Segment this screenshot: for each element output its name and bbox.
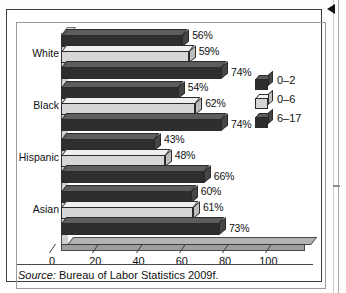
category-label-hispanic: Hispanic bbox=[19, 151, 59, 163]
page-edge-line-outer bbox=[338, 0, 339, 293]
x-tick-label: 80 bbox=[219, 255, 231, 267]
bar-asian-0-2 bbox=[61, 185, 191, 197]
source-divider bbox=[17, 264, 313, 265]
x-tick-label: 40 bbox=[132, 255, 144, 267]
bar-value-label: 74% bbox=[231, 66, 251, 78]
bar-value-label: 48% bbox=[175, 149, 195, 161]
bar-black-0-6 bbox=[61, 97, 195, 109]
bar-front bbox=[61, 223, 219, 235]
bar-hispanic-0-6 bbox=[61, 149, 165, 161]
page-edge-line bbox=[333, 0, 334, 293]
x-tick-label: 0 bbox=[49, 255, 55, 267]
chart-frame: WhiteBlackHispanicAsian 56%59%74%54%62%7… bbox=[6, 9, 322, 282]
legend-label: 6–17 bbox=[277, 112, 301, 124]
bar-white-0-2 bbox=[61, 29, 182, 41]
page-edge-tick bbox=[333, 185, 340, 187]
bar-black-0-2 bbox=[61, 81, 178, 93]
legend-swatch-cube-icon bbox=[255, 75, 268, 86]
bar-hispanic-0-2 bbox=[61, 133, 154, 145]
legend: 0–2 0–6 6–17 bbox=[255, 72, 319, 129]
figure-page: WhiteBlackHispanicAsian 56%59%74%54%62%7… bbox=[0, 0, 346, 293]
category-label-white: White bbox=[32, 47, 59, 59]
legend-item-2: 6–17 bbox=[255, 110, 319, 129]
bar-value-label: 61% bbox=[203, 201, 223, 213]
legend-label: 0–2 bbox=[277, 74, 295, 86]
bar-value-label: 59% bbox=[199, 45, 219, 57]
bar-value-label: 54% bbox=[188, 81, 208, 93]
x-tick-label: 20 bbox=[89, 255, 101, 267]
bar-value-label: 56% bbox=[192, 29, 212, 41]
left-triangle-marker-icon bbox=[327, 4, 335, 14]
source-note: Source: Bureau of Labor Statistics 2009f… bbox=[18, 269, 219, 281]
legend-swatch-cube-icon bbox=[255, 94, 268, 105]
bar-asian-6-17 bbox=[61, 217, 219, 229]
bar-value-label: 60% bbox=[201, 185, 221, 197]
legend-item-0: 0–2 bbox=[255, 72, 319, 91]
bar-asian-0-6 bbox=[61, 201, 193, 213]
x-tick-label: 100 bbox=[259, 255, 277, 267]
bar-white-0-6 bbox=[61, 45, 189, 57]
category-axis: WhiteBlackHispanicAsian bbox=[17, 15, 59, 245]
source-citation: Bureau of Labor Statistics 2009f. bbox=[56, 269, 219, 281]
legend-swatch-cube-icon bbox=[255, 113, 268, 124]
bar-hispanic-6-17 bbox=[61, 165, 204, 177]
bar-value-label: 73% bbox=[229, 222, 249, 234]
bar-value-label: 66% bbox=[214, 170, 234, 182]
legend-label: 0–6 bbox=[277, 93, 295, 105]
source-label: Source: bbox=[18, 269, 56, 281]
bar-value-label: 62% bbox=[205, 97, 225, 109]
bar-front bbox=[61, 67, 221, 79]
bar-front bbox=[61, 119, 221, 131]
category-label-asian: Asian bbox=[33, 203, 59, 215]
bar-white-6-17 bbox=[61, 61, 221, 73]
plot-area: WhiteBlackHispanicAsian 56%59%74%54%62%7… bbox=[17, 15, 313, 245]
x-tick-label: 60 bbox=[176, 255, 188, 267]
x-tick bbox=[49, 244, 56, 253]
bar-black-6-17 bbox=[61, 113, 221, 125]
category-label-black: Black bbox=[33, 99, 59, 111]
legend-item-1: 0–6 bbox=[255, 91, 319, 110]
bar-value-label: 74% bbox=[231, 118, 251, 130]
bar-front bbox=[61, 171, 204, 183]
bar-value-label: 43% bbox=[164, 133, 184, 145]
